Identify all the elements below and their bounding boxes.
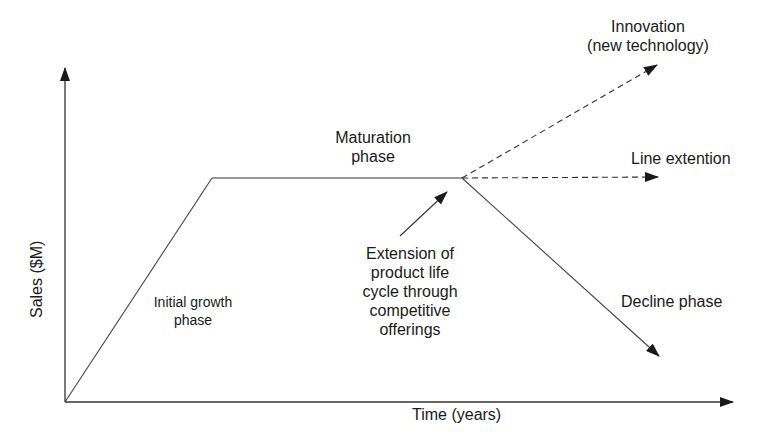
product-life-cycle-diagram <box>0 0 783 448</box>
maturation-label-line2: phase <box>318 147 428 166</box>
maturation-label-line1: Maturation <box>318 128 428 147</box>
y-axis-text: Sales ($M) <box>28 241 45 318</box>
y-axis-label: Sales ($M) <box>28 241 46 318</box>
line-extension-arrow <box>462 177 658 178</box>
extension-line2: product life <box>348 263 472 282</box>
decline-text: Decline phase <box>621 293 722 310</box>
growth-label: Initial growth phase <box>138 293 248 329</box>
decline-arrow <box>462 178 659 356</box>
line-extension-label: Line extention <box>631 149 731 168</box>
extension-line3: cycle through <box>348 282 472 301</box>
innovation-arrow <box>462 65 657 178</box>
growth-line <box>65 178 212 402</box>
extension-line5: offerings <box>348 320 472 339</box>
innovation-label: Innovation (new technology) <box>573 17 723 55</box>
x-axis-label: Time (years) <box>412 405 501 424</box>
line-extension-text: Line extention <box>631 150 731 167</box>
maturation-label: Maturation phase <box>318 128 428 166</box>
x-axis-text: Time (years) <box>412 406 501 423</box>
innovation-label-line1: Innovation <box>573 17 723 36</box>
extension-label: Extension of product life cycle through … <box>348 244 472 339</box>
extension-pointer-arrow <box>400 192 447 236</box>
extension-line4: competitive <box>348 301 472 320</box>
growth-label-line1: Initial growth <box>138 293 248 311</box>
growth-label-line2: phase <box>138 311 248 329</box>
innovation-label-line2: (new technology) <box>573 36 723 55</box>
decline-label: Decline phase <box>621 292 722 311</box>
extension-line1: Extension of <box>348 244 472 263</box>
